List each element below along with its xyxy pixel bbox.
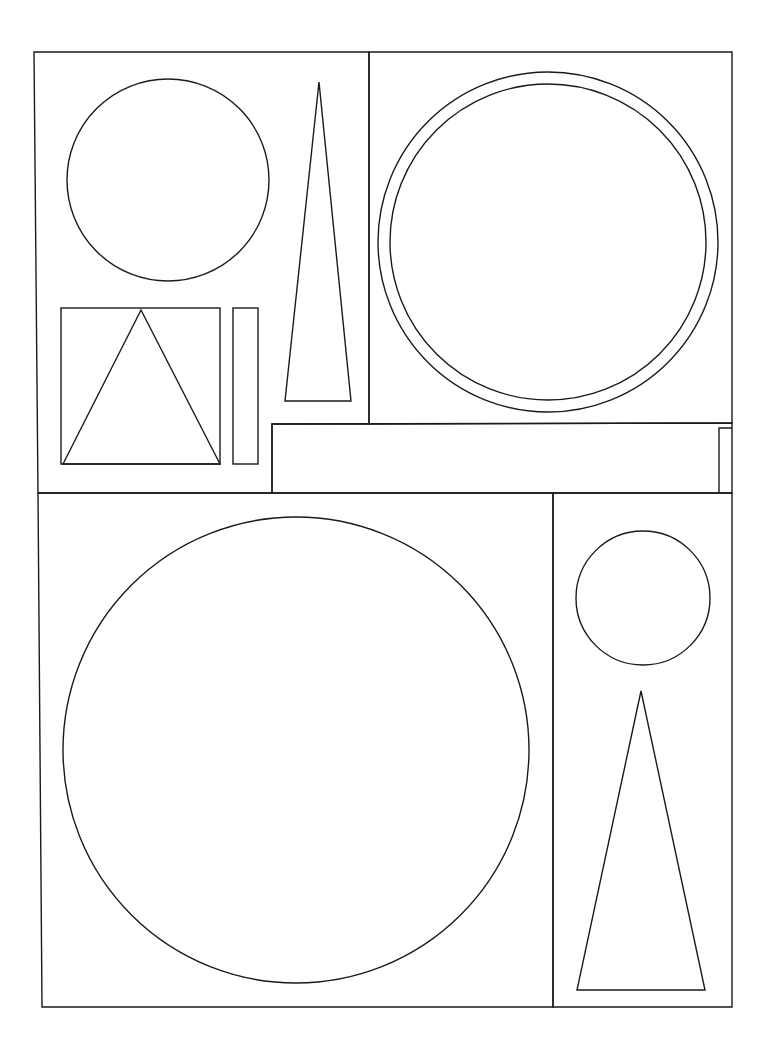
- small-right-circle: [576, 531, 710, 665]
- triangles: [63, 82, 705, 990]
- top-right-panel: [369, 52, 732, 424]
- thin-vertical-rectangle: [233, 308, 258, 464]
- top-right-outer-circle: [378, 72, 718, 412]
- bar-step: [719, 428, 732, 493]
- bottom-right-triangle: [577, 691, 705, 990]
- large-bottom-circle: [63, 517, 529, 983]
- square-frame: [61, 308, 220, 464]
- bottom-left-panel: [38, 493, 553, 1007]
- horizontal-bar: [272, 423, 732, 493]
- square-inscribed-triangle: [63, 310, 220, 464]
- panel-frames: [34, 52, 732, 1007]
- top-right-inner-circle: [390, 84, 706, 400]
- circles: [63, 72, 718, 983]
- geometric-drawing: [0, 0, 767, 1043]
- rectangles: [61, 308, 258, 464]
- top-left-circle: [67, 79, 269, 281]
- bottom-right-panel: [553, 493, 732, 1007]
- tall-narrow-triangle: [285, 82, 351, 401]
